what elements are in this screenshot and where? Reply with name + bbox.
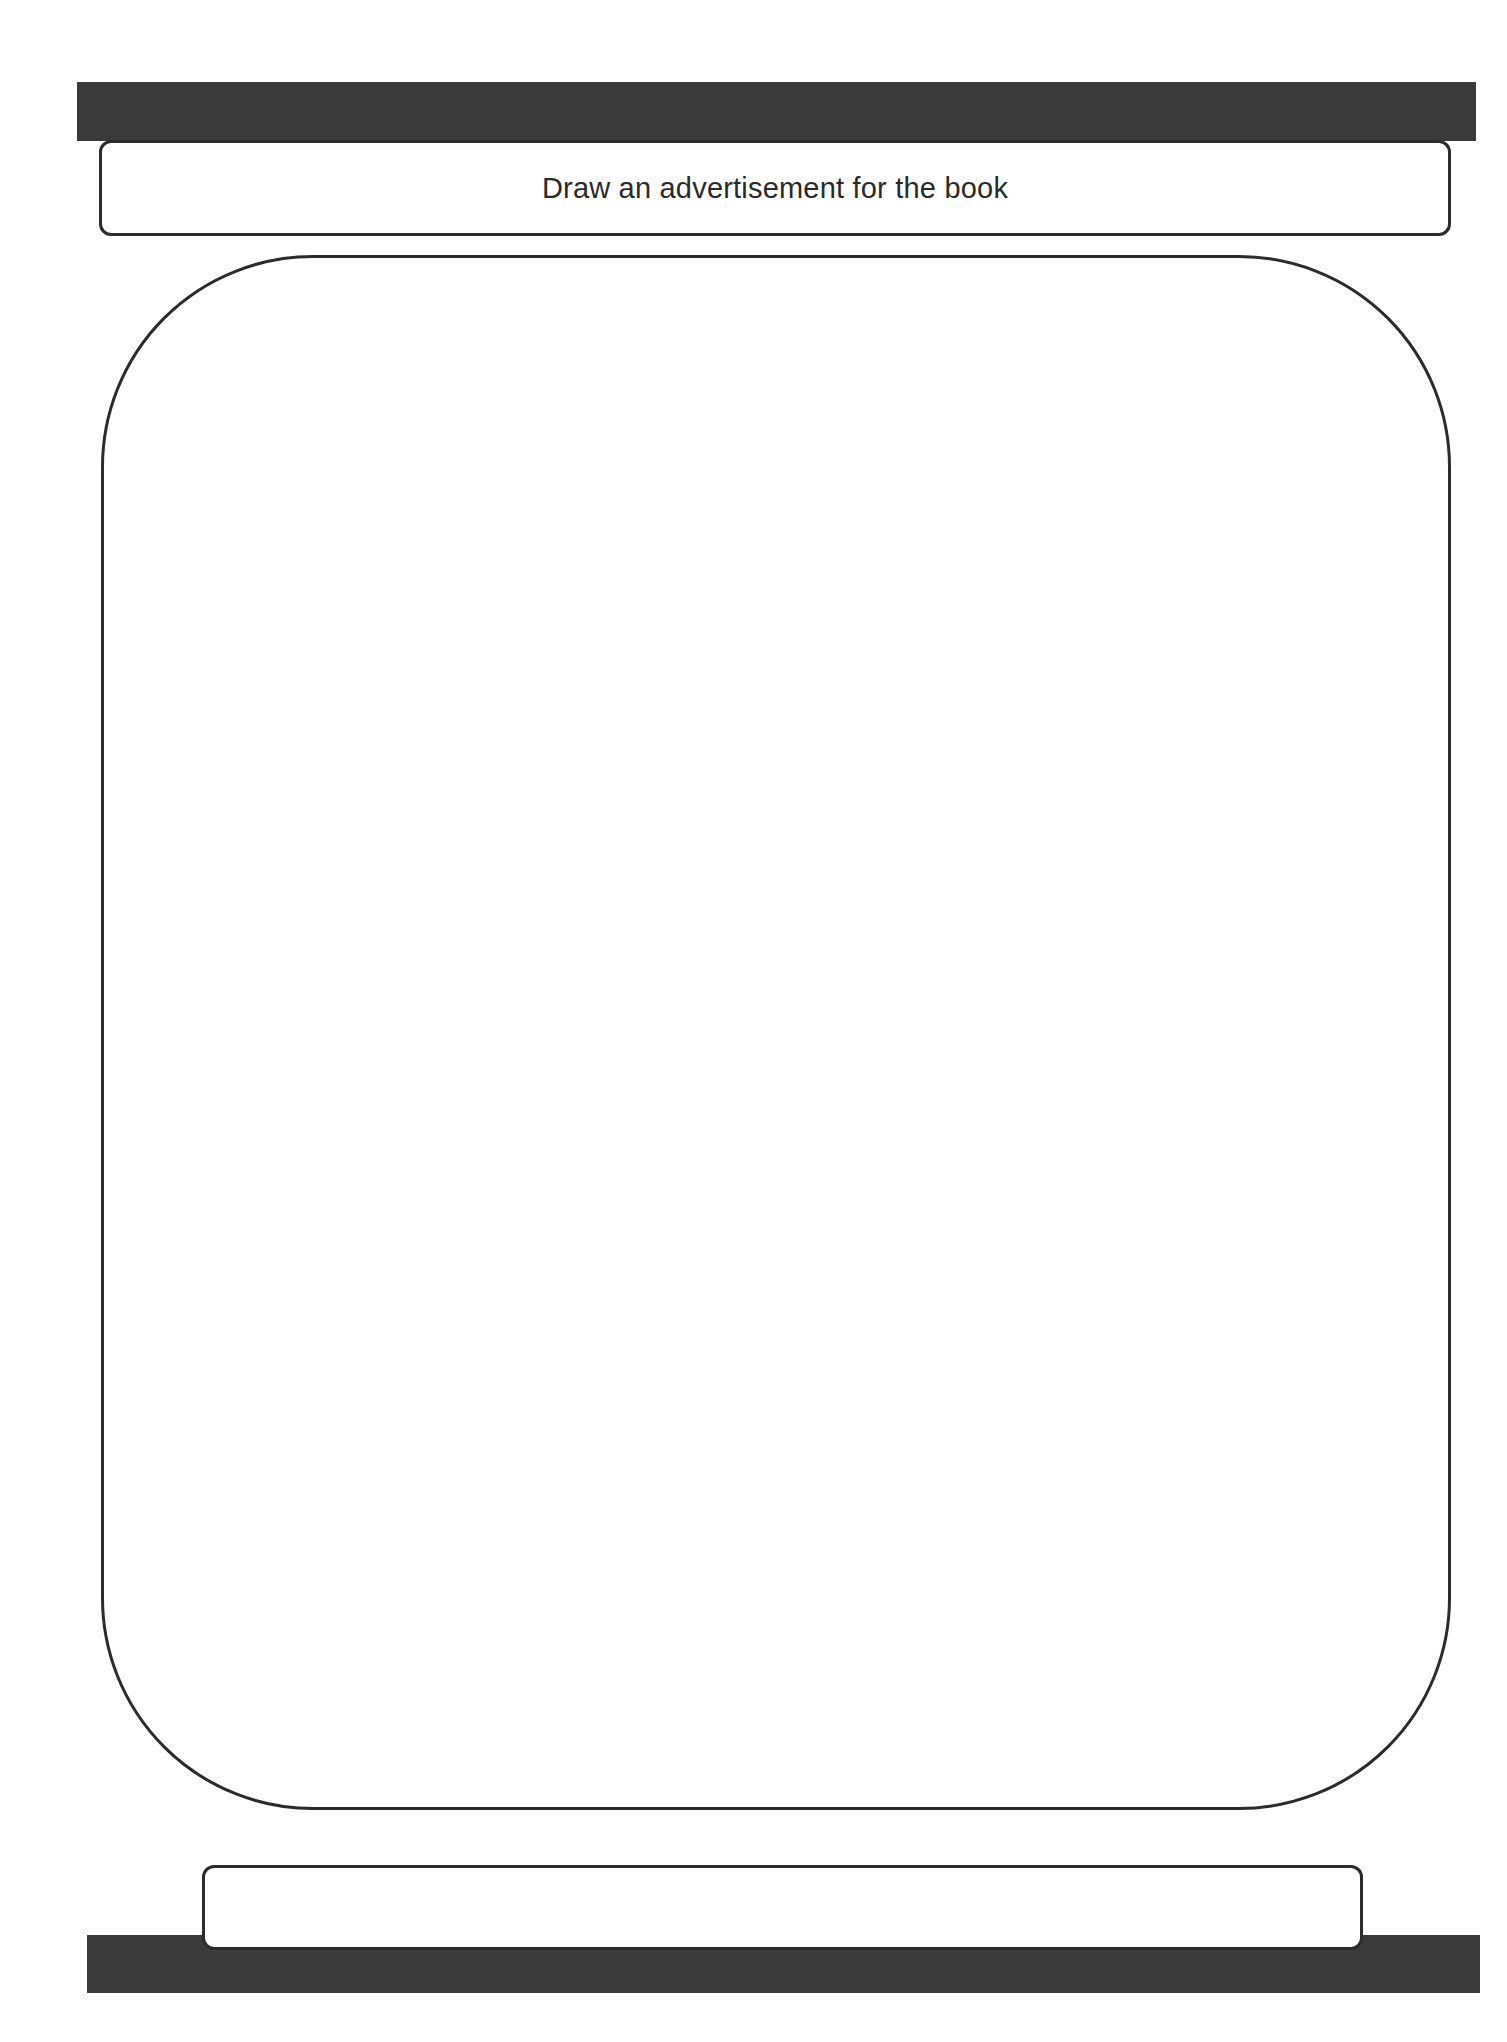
top-decorative-bar [77, 82, 1476, 141]
worksheet-title: Draw an advertisement for the book [542, 172, 1008, 205]
caption-box[interactable] [202, 1865, 1363, 1950]
drawing-area[interactable] [101, 255, 1451, 1810]
title-box: Draw an advertisement for the book [99, 140, 1451, 236]
